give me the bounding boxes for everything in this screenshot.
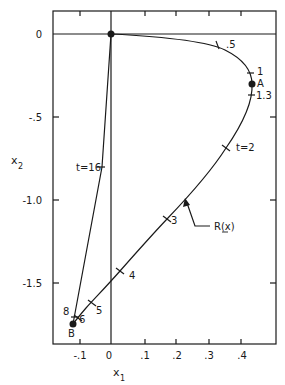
label-t4: 4	[129, 270, 135, 281]
label-t2: t=2	[236, 142, 255, 153]
point-b	[70, 321, 77, 328]
x-tick-label: -.1	[73, 350, 86, 361]
time-ticks	[71, 41, 255, 321]
label-t5: 5	[96, 305, 102, 316]
left-ticks	[53, 117, 59, 283]
phase-plot: -.1 0 .1 .2 .3 .4 0 -.5 -1.0 -1.5 x 1 x …	[0, 0, 285, 385]
x2-axis-label: x 2	[11, 154, 23, 171]
x-tick-label: .1	[140, 350, 150, 361]
bottom-ticks	[80, 339, 241, 344]
label-a: A	[257, 78, 264, 89]
x-tick-label: .4	[237, 350, 247, 361]
label-b: B	[68, 328, 75, 339]
y-tick-label: -1.5	[22, 278, 42, 289]
point-a	[249, 81, 256, 88]
svg-text:x: x	[11, 154, 18, 167]
svg-text:1: 1	[120, 374, 125, 383]
label-t6: 6	[79, 314, 85, 325]
y-tick-label: 0	[36, 29, 42, 40]
arrow-head-icon	[183, 198, 190, 207]
x-tick-label: .2	[172, 350, 182, 361]
label-t8: 8	[63, 306, 69, 317]
y-tick-label: -.5	[29, 112, 42, 123]
x-tick-label: 0	[106, 350, 112, 361]
svg-text:x: x	[113, 366, 120, 379]
y-tick-label: -1.0	[22, 195, 42, 206]
origin-point	[108, 31, 115, 38]
label-t16: t=16	[76, 162, 101, 173]
label-t1: 1	[257, 66, 263, 77]
svg-text:2: 2	[18, 162, 23, 171]
right-ticks	[270, 117, 276, 283]
x1-axis-label: x 1	[113, 366, 125, 383]
trajectory-curve	[73, 34, 252, 324]
top-ticks	[80, 11, 241, 16]
region-annotation: R(x)	[183, 198, 235, 232]
label-t3: 3	[171, 215, 177, 226]
svg-text:R(x): R(x)	[214, 221, 235, 232]
label-t13: 1.3	[256, 90, 272, 101]
label-t05: .5	[226, 39, 236, 50]
x-tick-label: .3	[204, 350, 214, 361]
plot-frame	[53, 11, 276, 344]
